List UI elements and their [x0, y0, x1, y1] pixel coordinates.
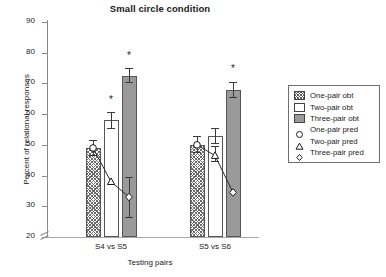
legend-item[interactable]: Two-pair pred	[294, 136, 374, 147]
y-tick-label: 50	[26, 139, 35, 148]
circle-marker-icon	[294, 125, 305, 134]
prediction-markers-layer	[47, 20, 259, 238]
x-tick-label: S5 vs S6	[175, 242, 255, 251]
y-tick-label: 60	[26, 108, 35, 117]
legend-item-label: One-pair pred	[310, 125, 358, 134]
prediction-marker	[90, 145, 97, 152]
legend-item[interactable]: Three-pair obt	[294, 113, 374, 124]
diamond-marker-icon	[294, 148, 305, 157]
chart-title: Small circle condition	[60, 3, 260, 14]
chart-figure: Small circle condition Percent of relati…	[0, 0, 386, 277]
y-tick-label: 90	[26, 16, 35, 25]
legend-item-label: One-pair obt	[310, 91, 353, 100]
legend-item-label: Two-pair pred	[310, 137, 358, 146]
y-tick-label: 20	[26, 231, 35, 240]
triangle-marker-icon	[294, 137, 305, 146]
prediction-marker	[211, 152, 218, 159]
legend-item[interactable]: Two-pair obt	[294, 101, 374, 112]
y-tick-label: 30	[26, 200, 35, 209]
y-tick-label: 80	[26, 47, 35, 56]
legend-item-label: Three-pair pred	[310, 148, 364, 157]
prediction-marker	[230, 189, 237, 197]
x-axis-title: Testing pairs	[40, 258, 260, 267]
plot-area: 2030405060708090 *** S4 vs S5S5 vs S6	[47, 20, 259, 238]
y-tick-label: 70	[26, 77, 35, 86]
hatched-square-icon	[294, 91, 305, 100]
legend-item[interactable]: Three-pair pred	[294, 147, 374, 158]
y-axis-title: Percent of relational responses	[22, 50, 31, 210]
prediction-connector-line	[93, 148, 129, 197]
legend-item[interactable]: One-pair pred	[294, 124, 374, 135]
legend-item[interactable]: One-pair obt	[294, 90, 374, 101]
prediction-marker	[194, 142, 201, 149]
legend-item-label: Three-pair obt	[310, 114, 359, 123]
gray-square-icon	[294, 114, 305, 123]
prediction-marker	[107, 178, 114, 185]
legend-item-label: Two-pair obt	[310, 103, 353, 112]
y-tick-label: 40	[26, 170, 35, 179]
x-tick-label: S4 vs S5	[71, 242, 151, 251]
white-square-icon	[294, 103, 305, 112]
chart-legend: One-pair obtTwo-pair obtThree-pair obtOn…	[288, 85, 380, 163]
